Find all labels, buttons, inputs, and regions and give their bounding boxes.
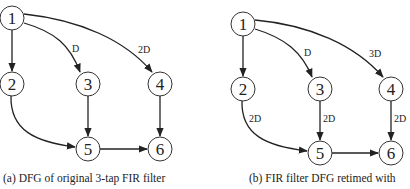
node-a-1: 1 xyxy=(0,6,24,30)
node-a-5: 5 xyxy=(76,137,100,161)
caption-panel-a: (a) DFG of original 3-tap FIR filter xyxy=(3,172,165,184)
svg-text:1: 1 xyxy=(8,9,17,28)
svg-text:2: 2 xyxy=(8,75,17,94)
svg-text:1: 1 xyxy=(239,15,248,34)
edge-label-b-1-3: D xyxy=(304,47,311,58)
node-b-5: 5 xyxy=(308,141,332,165)
node-a-2: 2 xyxy=(0,72,24,96)
panel-b-graph: D 3D 2D 2D 2D 1 2 3 4 5 6 xyxy=(231,12,406,165)
edge-b-2-5 xyxy=(242,101,307,151)
svg-text:6: 6 xyxy=(387,144,396,163)
node-b-6: 6 xyxy=(379,141,403,165)
svg-text:4: 4 xyxy=(156,75,165,94)
edge-label-a-1-4: 2D xyxy=(138,44,150,55)
edge-b-1-4 xyxy=(255,20,383,77)
edge-label-b-4-6: 2D xyxy=(394,113,406,124)
node-b-1: 1 xyxy=(231,12,255,36)
edge-label-b-3-5: 2D xyxy=(323,113,335,124)
node-b-4: 4 xyxy=(379,77,403,101)
edge-a-2-5 xyxy=(11,96,75,147)
edge-a-1-4 xyxy=(24,14,152,72)
panel-a-graph: D 2D 1 2 3 4 5 6 xyxy=(0,6,172,161)
dfg-figure: D 2D 1 2 3 4 5 6 D 3D 2D 2D 2D 1 2 3 4 5… xyxy=(0,0,410,189)
node-a-6: 6 xyxy=(148,137,172,161)
svg-text:2: 2 xyxy=(239,80,248,99)
svg-text:3: 3 xyxy=(84,75,93,94)
edge-label-b-2-5: 2D xyxy=(249,113,261,124)
svg-text:4: 4 xyxy=(387,80,396,99)
node-a-3: 3 xyxy=(76,72,100,96)
edge-label-a-1-3: D xyxy=(72,43,79,54)
svg-text:5: 5 xyxy=(316,144,325,163)
edge-label-b-1-4: 3D xyxy=(369,48,381,59)
svg-text:3: 3 xyxy=(316,80,325,99)
node-a-4: 4 xyxy=(148,72,172,96)
svg-text:6: 6 xyxy=(156,140,165,159)
caption-panel-b: (b) FIR filter DFG retimed with xyxy=(249,172,396,184)
node-b-3: 3 xyxy=(308,77,332,101)
node-b-2: 2 xyxy=(231,77,255,101)
svg-text:5: 5 xyxy=(84,140,93,159)
